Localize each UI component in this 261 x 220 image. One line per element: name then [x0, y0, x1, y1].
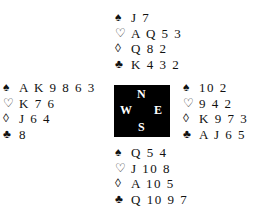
heart-icon: ♡ — [115, 161, 131, 177]
club-icon: ♣ — [183, 127, 199, 143]
south-clubs: Q 10 9 7 — [131, 192, 188, 208]
compass-west-label: W — [120, 103, 132, 118]
south-spades: Q 5 4 — [131, 145, 167, 161]
south-hearts-row: ♡J 10 8 — [115, 161, 188, 177]
diamond-icon: ◊ — [115, 41, 131, 57]
spade-icon: ♠ — [115, 10, 131, 26]
north-diamonds: Q 8 2 — [131, 41, 167, 57]
west-diamonds: J 6 4 — [19, 111, 51, 127]
east-diamonds: K 9 7 3 — [199, 111, 248, 127]
east-spades-row: ♠10 2 — [183, 80, 248, 96]
north-hearts-row: ♡A Q 5 3 — [115, 26, 182, 42]
spade-icon: ♠ — [115, 145, 131, 161]
heart-icon: ♡ — [3, 96, 19, 112]
east-clubs: A J 6 5 — [199, 127, 246, 143]
north-clubs: K 4 3 2 — [131, 57, 180, 73]
south-clubs-row: ♣Q 10 9 7 — [115, 192, 188, 208]
heart-icon: ♡ — [115, 26, 131, 42]
west-clubs: 8 — [19, 127, 27, 143]
south-hearts: J 10 8 — [131, 161, 171, 177]
club-icon: ♣ — [115, 57, 131, 73]
south-diamonds-row: ◊A 10 5 — [115, 176, 188, 192]
south-diamonds: A 10 5 — [131, 176, 175, 192]
east-clubs-row: ♣A J 6 5 — [183, 127, 248, 143]
compass-north-label: N — [137, 87, 146, 102]
diamond-icon: ◊ — [183, 111, 199, 127]
diamond-icon: ◊ — [115, 176, 131, 192]
north-hand: ♠J 7 ♡A Q 5 3 ◊Q 8 2 ♣K 4 3 2 — [115, 10, 182, 72]
spade-icon: ♠ — [3, 80, 19, 96]
east-hearts-row: ♡9 4 2 — [183, 96, 248, 112]
west-clubs-row: ♣8 — [3, 127, 96, 143]
north-diamonds-row: ◊Q 8 2 — [115, 41, 182, 57]
compass-south-label: S — [138, 120, 145, 135]
diamond-icon: ◊ — [3, 111, 19, 127]
south-spades-row: ♠Q 5 4 — [115, 145, 188, 161]
west-hand: ♠A K 9 8 6 3 ♡K 7 6 ◊J 6 4 ♣8 — [3, 80, 96, 142]
club-icon: ♣ — [115, 192, 131, 208]
west-hearts: K 7 6 — [19, 96, 55, 112]
club-icon: ♣ — [3, 127, 19, 143]
spade-icon: ♠ — [183, 80, 199, 96]
west-hearts-row: ♡K 7 6 — [3, 96, 96, 112]
east-diamonds-row: ◊K 9 7 3 — [183, 111, 248, 127]
south-hand: ♠Q 5 4 ♡J 10 8 ◊A 10 5 ♣Q 10 9 7 — [115, 145, 188, 207]
north-spades-row: ♠J 7 — [115, 10, 182, 26]
north-clubs-row: ♣K 4 3 2 — [115, 57, 182, 73]
heart-icon: ♡ — [183, 96, 199, 112]
west-spades-row: ♠A K 9 8 6 3 — [3, 80, 96, 96]
north-spades: J 7 — [131, 10, 150, 26]
compass-east-label: E — [154, 103, 162, 118]
east-hearts: 9 4 2 — [199, 96, 233, 112]
east-hand: ♠10 2 ♡9 4 2 ◊K 9 7 3 ♣A J 6 5 — [183, 80, 248, 142]
east-spades: 10 2 — [199, 80, 228, 96]
north-hearts: A Q 5 3 — [131, 26, 182, 42]
west-diamonds-row: ◊J 6 4 — [3, 111, 96, 127]
west-spades: A K 9 8 6 3 — [19, 80, 96, 96]
compass-box: N W E S — [114, 85, 170, 137]
